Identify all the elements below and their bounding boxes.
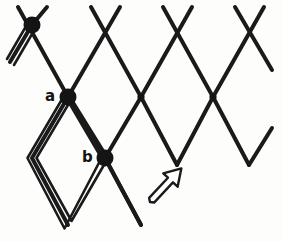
node-b-dot bbox=[97, 150, 114, 167]
canvas-background bbox=[0, 0, 283, 242]
node-label-b: b bbox=[82, 150, 93, 165]
top-left-node bbox=[24, 17, 41, 34]
mid-node-2-dot bbox=[137, 93, 144, 100]
node-label-a: a bbox=[45, 89, 55, 104]
node-a-dot bbox=[60, 89, 77, 106]
lattice-figure: a b bbox=[0, 0, 283, 242]
mid-node-3-dot bbox=[209, 93, 216, 100]
lattice-diagram-svg bbox=[0, 0, 283, 242]
